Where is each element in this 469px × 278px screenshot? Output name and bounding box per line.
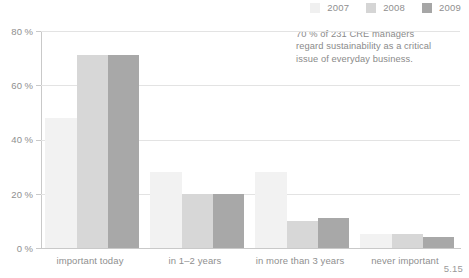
chart-figure: 2007 2008 2009 70 % of 231 CRE managers … xyxy=(0,0,469,278)
y-tick-label-60: 60 % xyxy=(0,80,33,91)
bar-in-1-2-years-2007 xyxy=(150,172,182,248)
bar-in-1-2-years-2009 xyxy=(213,194,244,248)
legend-swatch-2007 xyxy=(310,3,320,13)
legend-label-2009: 2009 xyxy=(439,3,461,13)
bar-in-more-than-3-years-2009 xyxy=(318,218,349,248)
x-tick-label-in-more-than-3-years: in more than 3 years xyxy=(251,255,349,266)
bar-in-more-than-3-years-2008 xyxy=(287,221,318,248)
y-tick-label-0: 0 % xyxy=(0,243,33,254)
plot-area xyxy=(41,31,460,248)
bar-important-today-2009 xyxy=(108,55,139,248)
x-tick-label-in-1-2-years: in 1–2 years xyxy=(146,255,244,266)
bar-never-important-2008 xyxy=(392,234,423,248)
x-tick-label-important-today: important today xyxy=(41,255,139,266)
legend-swatch-2008 xyxy=(366,3,376,13)
chart-legend: 2007 2008 2009 xyxy=(310,3,461,13)
legend-swatch-2009 xyxy=(422,3,432,13)
bar-never-important-2009 xyxy=(423,237,454,248)
legend-entry-2009: 2009 xyxy=(422,3,461,13)
y-tick-label-40: 40 % xyxy=(0,134,33,145)
bar-important-today-2008 xyxy=(77,55,108,248)
bar-in-1-2-years-2008 xyxy=(182,194,213,248)
gridline-80 xyxy=(41,31,460,32)
legend-label-2007: 2007 xyxy=(327,3,349,13)
y-tick-label-80: 80 % xyxy=(0,26,33,37)
figure-number: 5.15 xyxy=(444,263,463,274)
y-tick-label-20: 20 % xyxy=(0,189,33,200)
bar-important-today-2007 xyxy=(45,118,77,248)
bar-in-more-than-3-years-2007 xyxy=(255,172,287,248)
legend-label-2008: 2008 xyxy=(383,3,405,13)
bar-never-important-2007 xyxy=(360,234,392,248)
legend-entry-2008: 2008 xyxy=(366,3,405,13)
x-axis-line xyxy=(41,248,461,249)
x-tick-label-never-important: never important xyxy=(356,255,454,266)
legend-entry-2007: 2007 xyxy=(310,3,349,13)
